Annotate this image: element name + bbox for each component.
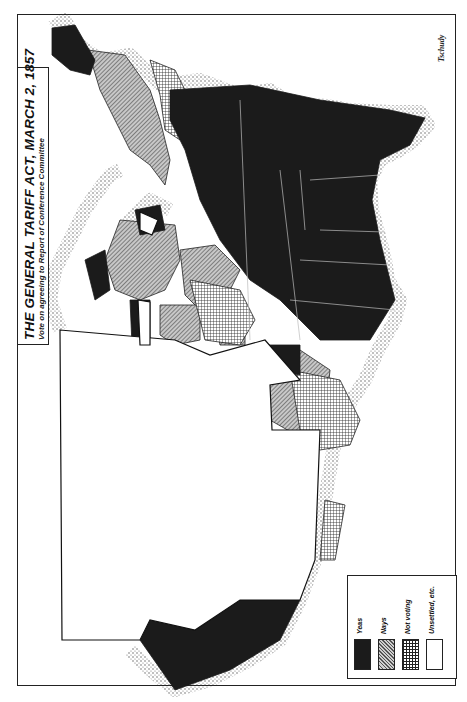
unsettled-swatch bbox=[426, 639, 443, 670]
nays-swatch bbox=[378, 639, 395, 670]
legend-item-not-voting: Not voting bbox=[402, 576, 422, 676]
map-subtitle: Vote on agreeing to Report of Conference… bbox=[37, 138, 46, 340]
cartographer-signature: Tschudy bbox=[437, 35, 446, 62]
yeas-swatch bbox=[354, 639, 371, 670]
map-title: THE GENERAL TARIFF ACT, MARCH 2, 1857 bbox=[22, 49, 37, 340]
legend-item-yeas: Yeas bbox=[354, 576, 374, 676]
legend: Yeas Nays Not voting Unsettled, etc. bbox=[347, 575, 457, 679]
not-voting-swatch bbox=[402, 639, 419, 670]
legend-item-nays: Nays bbox=[378, 576, 398, 676]
title-box: THE GENERAL TARIFF ACT, MARCH 2, 1857 Vo… bbox=[17, 67, 49, 345]
legend-item-unsettled: Unsettled, etc. bbox=[426, 576, 446, 676]
